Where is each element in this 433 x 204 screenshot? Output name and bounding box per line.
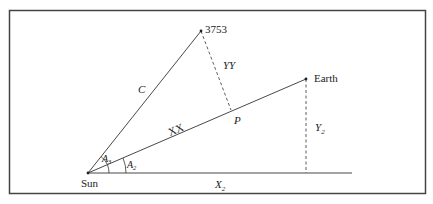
asteroid-label: 3753	[205, 23, 228, 35]
frame-border	[10, 11, 426, 194]
orbit-geometry-diagram: Sun 3753 Earth P C YY XX Y2 X2 A3 A2	[0, 0, 433, 204]
angle-arc-a2	[123, 158, 126, 173]
xx-label: XX	[166, 121, 185, 138]
line-c	[88, 31, 201, 173]
yy-label: YY	[223, 59, 237, 71]
p-label: P	[233, 114, 241, 126]
a2-label: A2	[126, 159, 137, 171]
sun-label: Sun	[81, 177, 99, 189]
earth-label: Earth	[314, 72, 338, 84]
c-label: C	[138, 83, 146, 95]
a3-label: A3	[101, 153, 112, 165]
sun-point	[87, 172, 90, 175]
asteroid-point	[200, 30, 203, 33]
earth-point	[305, 78, 308, 81]
angle-arc-a3-lower	[108, 165, 110, 173]
line-xx	[88, 79, 306, 173]
x2-label: X2	[214, 178, 226, 193]
y2-label: Y2	[315, 121, 325, 136]
